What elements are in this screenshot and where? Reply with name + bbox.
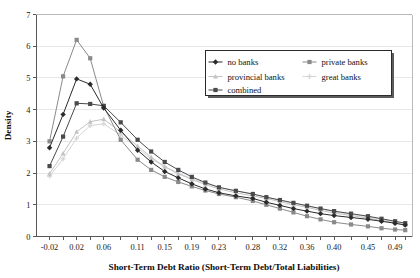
data-point — [291, 201, 295, 205]
data-point — [203, 180, 207, 184]
x-tick-label: 0.28 — [245, 243, 260, 252]
data-point — [74, 76, 79, 81]
data-point — [213, 88, 217, 92]
legend-label: private banks — [322, 57, 369, 67]
data-point — [136, 158, 140, 162]
y-tick-label: 1 — [26, 201, 30, 210]
data-point — [251, 192, 255, 196]
data-point — [47, 164, 51, 168]
x-tick-label: 0.19 — [184, 243, 199, 252]
data-point — [101, 117, 106, 122]
x-tick-label: 0.06 — [96, 243, 111, 252]
series-line — [50, 79, 406, 225]
data-point — [75, 38, 79, 42]
data-point — [176, 168, 180, 172]
y-tick-label: 0 — [26, 233, 30, 242]
data-point — [119, 120, 123, 124]
data-point — [190, 175, 194, 179]
data-point — [318, 217, 322, 221]
y-tick-label: 2 — [26, 169, 30, 178]
y-tick-label: 6 — [26, 42, 30, 51]
series-great-banks — [47, 122, 407, 227]
x-tick-label: 0.49 — [388, 243, 403, 252]
data-point — [163, 175, 167, 179]
legend-label: provincial banks — [228, 72, 286, 82]
x-tick-label: 0.32 — [273, 243, 288, 252]
y-tick-label: 7 — [26, 11, 30, 20]
data-point — [61, 74, 65, 78]
x-tick-label: 0.02 — [69, 243, 84, 252]
data-point — [366, 224, 370, 228]
data-point — [379, 226, 383, 230]
data-point — [88, 102, 92, 106]
legend-label: no banks — [228, 57, 259, 67]
y-axis-ticks: 01234567 — [26, 11, 36, 242]
data-point — [119, 138, 123, 142]
y-tick-label: 3 — [26, 137, 30, 146]
data-point — [349, 222, 353, 226]
density-chart-figure: 01234567-0.020.020.060.110.150.190.230.2… — [0, 0, 420, 278]
data-point — [176, 175, 181, 180]
data-point — [318, 206, 322, 210]
data-point — [332, 209, 336, 213]
data-point — [75, 101, 79, 105]
gridlines — [36, 15, 412, 205]
data-point — [305, 214, 309, 218]
series-line — [50, 119, 406, 225]
x-tick-label: 0.40 — [327, 243, 342, 252]
data-point — [393, 227, 397, 231]
data-point — [88, 56, 92, 60]
data-point — [307, 60, 311, 64]
data-point — [305, 204, 309, 208]
x-tick-label: 0.11 — [130, 243, 144, 252]
y-tick-label: 4 — [26, 106, 31, 115]
data-point — [264, 195, 268, 199]
data-point — [403, 228, 407, 232]
data-point — [136, 138, 140, 142]
series-line — [50, 124, 406, 224]
series-provincial-banks — [47, 117, 407, 228]
data-point — [163, 160, 167, 164]
data-point — [87, 82, 92, 87]
y-tick-label: 5 — [26, 74, 30, 83]
x-tick-label: 0.36 — [300, 243, 315, 252]
legend-label: combined — [228, 85, 263, 95]
data-point — [278, 198, 282, 202]
data-point — [234, 189, 238, 193]
chart-canvas: 01234567-0.020.020.060.110.150.190.230.2… — [0, 0, 420, 278]
x-axis-ticks: -0.020.020.060.110.150.190.230.280.320.3… — [41, 237, 405, 252]
data-point — [47, 145, 52, 150]
data-point — [149, 149, 153, 153]
x-axis-title: Short-Term Debt Ratio (Short-Term Debt/T… — [109, 262, 340, 272]
x-tick-label: 0.23 — [212, 243, 227, 252]
legend: no banksprivate banksprovincial banksgre… — [206, 51, 395, 99]
data-point — [332, 220, 336, 224]
data-point — [74, 129, 79, 134]
legend-label: great banks — [322, 72, 362, 82]
data-point — [149, 168, 153, 172]
data-point — [217, 185, 221, 189]
x-tick-label: -0.02 — [41, 243, 58, 252]
x-tick-label: 0.15 — [157, 243, 172, 252]
data-point — [60, 112, 65, 117]
y-axis-title: Density — [3, 110, 13, 140]
x-tick-label: 0.45 — [361, 243, 376, 252]
data-point — [61, 135, 65, 139]
